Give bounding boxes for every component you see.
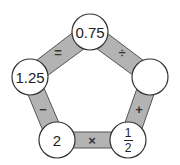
fraction: 1 2 xyxy=(124,127,133,154)
operator-divide: ÷ xyxy=(114,44,130,60)
node-left-value: 1.25 xyxy=(13,60,47,94)
operator-plus: + xyxy=(131,101,147,117)
fraction-denominator: 2 xyxy=(125,142,132,154)
fraction-numerator: 1 xyxy=(125,127,132,139)
operator-minus: − xyxy=(35,101,51,117)
operator-equals: = xyxy=(50,44,66,60)
node-bottom-right-value: 1 2 xyxy=(111,123,145,157)
node-top-value: 0.75 xyxy=(73,15,107,49)
operator-multiply: × xyxy=(84,132,100,148)
node-right-value[interactable] xyxy=(133,60,167,94)
node-bottom-left-value: 2 xyxy=(40,123,74,157)
